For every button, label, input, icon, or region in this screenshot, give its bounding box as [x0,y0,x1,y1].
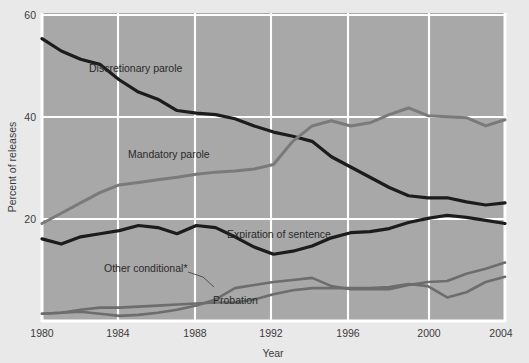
chart-container: Discretionary parole Mandatory parole Ex… [0,0,529,363]
line-chart-figure: Discretionary parole Mandatory parole Ex… [0,0,529,363]
label-probation: Probation [213,294,258,306]
x-tick-1984: 1984 [106,327,130,339]
x-tick-1980: 1980 [30,327,54,339]
label-mandatory-parole: Mandatory parole [128,148,210,160]
x-axis-title: Year [262,347,284,359]
label-other-conditional: Other conditional* [104,262,187,274]
x-tick-1988: 1988 [183,327,207,339]
x-tick-1996: 1996 [336,327,360,339]
x-tick-2000: 2000 [417,327,441,339]
plot-area-background [42,13,505,321]
y-tick-60: 60 [24,9,36,21]
y-tick-40: 40 [24,111,36,123]
label-expiration-of-sentence: Expiration of sentence [227,228,331,240]
y-tick-20: 20 [24,213,36,225]
label-discretionary-parole: Discretionary parole [89,62,183,74]
x-tick-2004: 2004 [489,327,513,339]
y-axis-title: Percent of releases [6,122,18,212]
x-tick-1992: 1992 [259,327,283,339]
